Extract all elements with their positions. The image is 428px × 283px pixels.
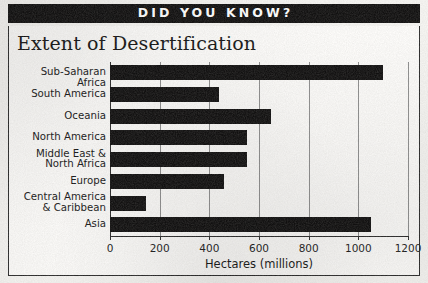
bar-row	[110, 193, 408, 215]
x-tick-1000	[358, 236, 359, 240]
category-label: Asia	[9, 219, 106, 230]
bar	[110, 65, 383, 80]
bar	[110, 109, 271, 124]
did-you-know-banner: DID YOU KNOW?	[8, 4, 420, 23]
category-label: Central America & Caribbean	[9, 192, 106, 213]
x-tick-label-800: 800	[299, 242, 319, 254]
x-tick-600	[259, 236, 260, 240]
bar	[110, 130, 247, 145]
bar-row	[110, 214, 408, 236]
x-tick-label-1200: 1200	[395, 242, 422, 254]
category-label: Europe	[9, 176, 106, 187]
x-tick-label-200: 200	[150, 242, 170, 254]
x-tick-400	[209, 236, 210, 240]
x-tick-label-600: 600	[249, 242, 269, 254]
bar	[110, 152, 247, 167]
bar	[110, 174, 224, 189]
gridline-1200	[408, 62, 409, 236]
bar-row	[110, 84, 408, 106]
scanned-page: DID YOU KNOW? Extent of Desertification …	[0, 0, 428, 283]
chart-title: Extent of Desertification	[17, 32, 256, 54]
x-tick-0	[110, 236, 111, 240]
bar-row	[110, 106, 408, 128]
bar	[110, 196, 146, 211]
banner-title: DID YOU KNOW?	[135, 7, 294, 20]
plot-area	[110, 62, 408, 236]
category-label: Oceania	[9, 111, 106, 122]
category-label: North America	[9, 132, 106, 143]
category-label: Middle East & North Africa	[9, 149, 106, 170]
x-tick-1200	[408, 236, 409, 240]
x-axis-title: Hectares (millions)	[110, 257, 408, 271]
bar	[110, 217, 371, 232]
category-label: South America	[9, 89, 106, 100]
x-tick-label-1000: 1000	[345, 242, 372, 254]
x-tick-200	[160, 236, 161, 240]
x-tick-label-0: 0	[107, 242, 114, 254]
category-label: Sub-Saharan Africa	[9, 67, 106, 88]
chart-card: Extent of Desertification 02004006008001…	[8, 26, 420, 276]
bar-row	[110, 171, 408, 193]
x-tick-label-400: 400	[199, 242, 219, 254]
x-tick-800	[309, 236, 310, 240]
bar-row	[110, 62, 408, 84]
bar	[110, 87, 219, 102]
bar-row	[110, 127, 408, 149]
bar-row	[110, 149, 408, 171]
